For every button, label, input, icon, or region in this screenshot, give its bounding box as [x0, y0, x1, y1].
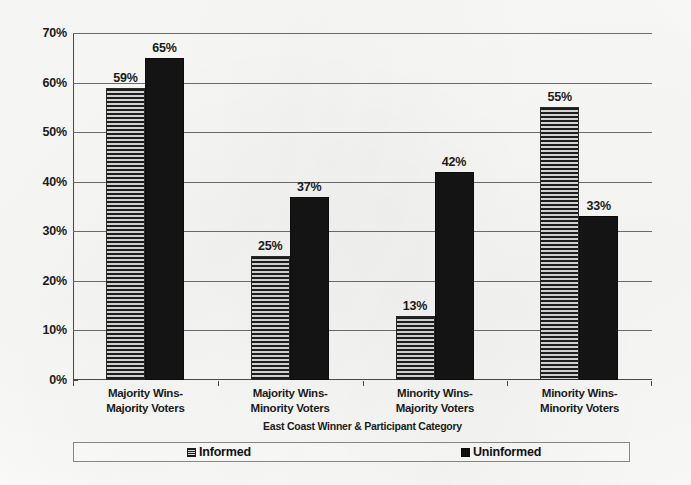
filled-square-icon [461, 448, 470, 457]
x-axis-category-label: Majority Wins-Minority Voters [218, 386, 363, 415]
x-axis-category-label: Majority Wins-Majority Voters [73, 386, 218, 415]
bar-value-label: 33% [571, 199, 627, 213]
bar-uninformed[interactable] [435, 172, 474, 380]
bar-value-label: 55% [532, 90, 588, 104]
bar-group: 13%42% [396, 33, 474, 380]
plot-area: 59%65%25%37%13%42%55%33% [73, 33, 652, 380]
x-axis-category-label: Minority Wins-Majority Voters [362, 386, 507, 415]
y-axis-tick-label: 70% [19, 26, 67, 40]
y-axis-tick-label: 20% [19, 274, 67, 288]
chart-legend: Informed Uninformed [73, 442, 630, 462]
y-axis-tick-label: 60% [19, 76, 67, 90]
bar-informed[interactable] [540, 107, 579, 380]
legend-label-informed: Informed [199, 445, 251, 459]
bar-value-label: 42% [426, 155, 482, 169]
y-axis-tick-label: 40% [19, 175, 67, 189]
x-axis-category-labels: Majority Wins-Majority VotersMajority Wi… [73, 386, 652, 420]
legend-item-uninformed[interactable]: Uninformed [461, 445, 541, 459]
bar-informed[interactable] [251, 256, 290, 380]
bar-informed[interactable] [106, 88, 145, 380]
category-line: Minority Wins- [507, 386, 652, 401]
x-axis-category-label: Minority Wins-Minority Voters [507, 386, 652, 415]
legend-item-informed[interactable]: Informed [187, 445, 251, 459]
bar-group: 25%37% [251, 33, 329, 380]
x-axis-title: East Coast Winner & Participant Category [73, 420, 652, 432]
bar-uninformed[interactable] [145, 58, 184, 380]
y-axis-labels: 0%10%20%30%40%50%60%70% [12, 33, 67, 380]
bar-value-label: 37% [281, 180, 337, 194]
bar-group: 55%33% [540, 33, 618, 380]
category-line: Majority Voters [362, 401, 507, 416]
bar-group: 59%65% [106, 33, 184, 380]
y-axis-tick-label: 10% [19, 323, 67, 337]
y-axis-tick-label: 0% [19, 373, 67, 387]
category-line: Majority Wins- [218, 386, 363, 401]
y-axis-tick-label: 30% [19, 224, 67, 238]
category-line: Majority Wins- [73, 386, 218, 401]
bar-informed[interactable] [396, 316, 435, 380]
legend-label-uninformed: Uninformed [473, 445, 541, 459]
bar-value-label: 65% [137, 41, 193, 55]
y-axis-tick-label: 50% [19, 125, 67, 139]
bar-uninformed[interactable] [290, 197, 329, 380]
category-line: Minority Voters [507, 401, 652, 416]
striped-square-icon [187, 448, 196, 457]
category-line: Majority Voters [73, 401, 218, 416]
chart-page: 0%10%20%30%40%50%60%70% 59%65%25%37%13%4… [0, 0, 691, 485]
category-line: Minority Wins- [362, 386, 507, 401]
bar-uninformed[interactable] [579, 216, 618, 380]
category-line: Minority Voters [218, 401, 363, 416]
